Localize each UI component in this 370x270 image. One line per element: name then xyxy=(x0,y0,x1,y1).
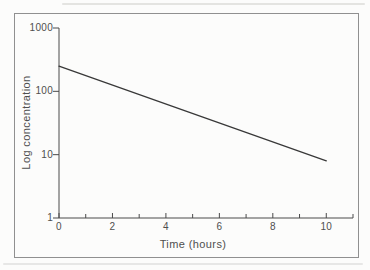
x-tick-label: 8 xyxy=(258,221,288,233)
x-tick-label: 4 xyxy=(151,221,181,233)
x-tick-label: 6 xyxy=(204,221,234,233)
x-tick-label: 0 xyxy=(44,221,74,233)
y-axis-title: Log concentration xyxy=(20,63,33,183)
figure: Log concentration Time (hours) 100010010… xyxy=(0,0,370,270)
concentration-line xyxy=(59,66,326,161)
x-tick-label: 10 xyxy=(311,221,341,233)
x-tick-label: 2 xyxy=(97,221,127,233)
y-tick-label: 10 xyxy=(0,149,53,161)
y-tick-label: 1000 xyxy=(0,22,53,34)
y-tick-label: 100 xyxy=(0,85,53,97)
x-axis-title: Time (hours) xyxy=(133,238,253,250)
